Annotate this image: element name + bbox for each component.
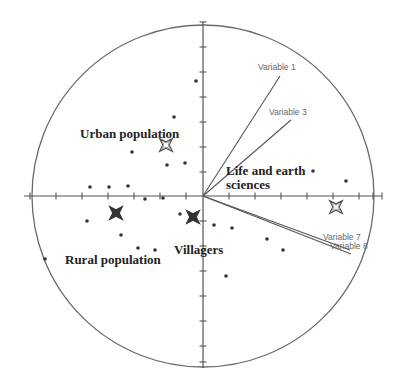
data-point <box>85 219 89 223</box>
group-label: sciences <box>226 177 270 192</box>
data-point <box>178 212 182 216</box>
data-point <box>344 179 348 183</box>
pca-correlation-circle-chart: Variable 1Variable 3Variable 7Variable 8… <box>0 0 402 384</box>
data-point <box>172 115 176 119</box>
data-point <box>165 163 169 167</box>
data-point <box>88 185 92 189</box>
data-point <box>230 226 234 230</box>
variable-vectors: Variable 1Variable 3Variable 7Variable 8 <box>203 62 368 254</box>
variable-label: Variable 1 <box>258 62 296 72</box>
data-point <box>130 150 134 154</box>
centroid-star-icon <box>187 211 200 224</box>
data-point <box>194 79 198 83</box>
data-point <box>224 274 228 278</box>
group-label: Villagers <box>174 242 223 257</box>
data-point <box>311 169 315 173</box>
data-point <box>43 257 47 261</box>
data-point <box>161 196 165 200</box>
variable-label: Variable 8 <box>330 241 368 251</box>
group-label: Urban population <box>80 126 180 141</box>
data-point <box>143 197 147 201</box>
centroid-star-icon <box>110 207 123 220</box>
group-label: Rural population <box>65 252 161 267</box>
data-point <box>183 161 187 165</box>
centroid-star-icon <box>330 201 343 214</box>
variable-label: Variable 3 <box>269 107 307 117</box>
data-point <box>136 246 140 250</box>
group-label: Life and earth <box>226 163 306 178</box>
data-point <box>281 248 285 252</box>
data-point <box>119 233 123 237</box>
data-point <box>126 184 130 188</box>
data-point <box>212 223 216 227</box>
variable-vector <box>203 196 351 254</box>
data-point <box>265 237 269 241</box>
data-point <box>107 185 111 189</box>
